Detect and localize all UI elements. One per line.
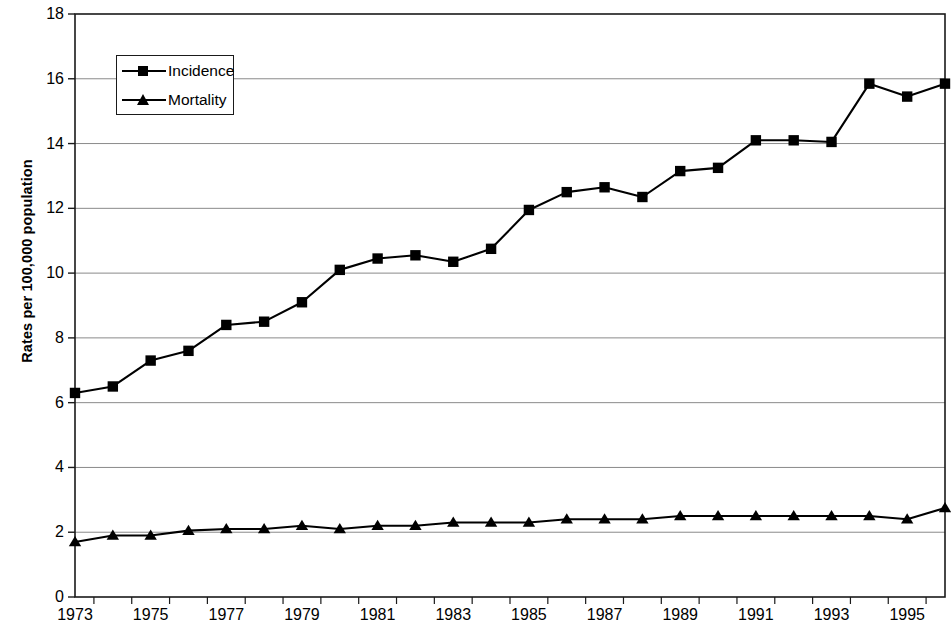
y-tick-label: 0 — [26, 588, 64, 606]
y-tick-label: 16 — [26, 70, 64, 88]
legend-item-mortality: Mortality — [117, 85, 235, 115]
x-tick-label: 1981 — [348, 606, 408, 624]
series-incidence — [70, 78, 950, 398]
legend-marker-triangle-icon — [122, 90, 166, 110]
x-tick-label: 1989 — [650, 606, 710, 624]
x-tick-label: 1979 — [272, 606, 332, 624]
y-tick-label: 18 — [26, 5, 64, 23]
x-tick-label: 1983 — [423, 606, 483, 624]
gridlines — [75, 79, 945, 532]
legend-marker-square-icon — [122, 61, 166, 81]
y-axis-ticks — [68, 14, 75, 597]
y-axis-title: Rates per 100,000 population — [16, 111, 38, 411]
y-tick-label: 6 — [26, 394, 64, 412]
y-tick-label: 10 — [26, 264, 64, 282]
series-mortality — [69, 502, 951, 546]
x-tick-label: 1985 — [499, 606, 559, 624]
y-tick-label: 14 — [26, 135, 64, 153]
x-axis-ticks — [94, 597, 926, 604]
legend-label-incidence: Incidence — [168, 62, 234, 80]
y-tick-label: 2 — [26, 523, 64, 541]
x-tick-label: 1993 — [802, 606, 862, 624]
x-tick-label: 1991 — [726, 606, 786, 624]
legend-label-mortality: Mortality — [168, 91, 227, 109]
legend-item-incidence: Incidence — [117, 56, 235, 86]
y-tick-label: 8 — [26, 329, 64, 347]
x-tick-label: 1975 — [121, 606, 181, 624]
x-tick-label: 1987 — [575, 606, 635, 624]
x-tick-label: 1977 — [196, 606, 256, 624]
y-tick-label: 12 — [26, 199, 64, 217]
x-tick-label: 1973 — [45, 606, 105, 624]
chart-legend: Incidence Mortality — [116, 55, 234, 115]
x-tick-label: 1995 — [877, 606, 937, 624]
chart-container: Rates per 100,000 population 02468101214… — [0, 0, 951, 641]
y-tick-label: 4 — [26, 458, 64, 476]
